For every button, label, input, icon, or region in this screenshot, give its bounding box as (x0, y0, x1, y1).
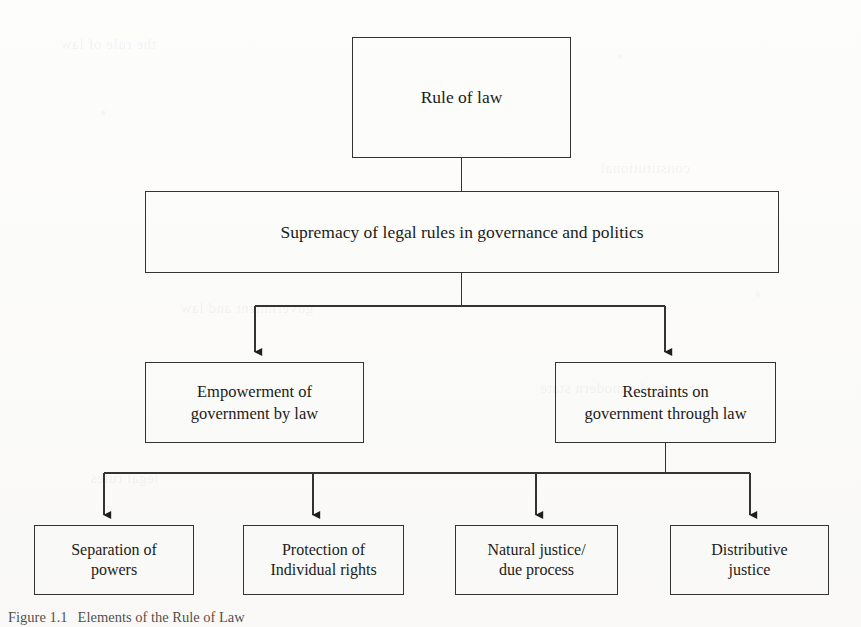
node-label-line1: Empowerment of (197, 382, 312, 401)
node-label: Separation of powers (63, 540, 165, 581)
node-label-line1: Restraints on (622, 382, 709, 401)
node-label: Protection of Individual rights (262, 540, 384, 581)
figure-caption-text: Elements of the Rule of Law (78, 609, 245, 625)
node-rule-of-law[interactable]: Rule of law (352, 37, 571, 158)
node-label-line2: government by law (191, 404, 318, 423)
node-label: Natural justice/ due process (479, 540, 593, 581)
scan-ghost-text: constitutional (600, 160, 690, 177)
node-label-line1: Separation of (71, 541, 157, 558)
node-label-line2: Individual rights (270, 561, 376, 578)
node-label: Supremacy of legal rules in governance a… (272, 221, 651, 243)
node-label-line2: powers (91, 561, 137, 578)
figure-number: Figure 1.1 (8, 609, 68, 625)
scan-ghost-text: government and law (180, 300, 313, 317)
node-label: Distributive justice (703, 540, 795, 581)
node-supremacy-of-legal-rules[interactable]: Supremacy of legal rules in governance a… (145, 191, 779, 273)
node-label-line1: Protection of (282, 541, 365, 558)
node-separation-of-powers[interactable]: Separation of powers (34, 525, 194, 595)
figure-caption: Figure 1.1Elements of the Rule of Law (8, 609, 245, 627)
node-label-line1: Natural justice/ (487, 541, 585, 558)
node-label: Rule of law (413, 86, 511, 108)
node-protection-of-individual-rights[interactable]: Protection of Individual rights (243, 525, 404, 595)
node-label-line2: justice (729, 561, 771, 578)
node-distributive-justice[interactable]: Distributive justice (670, 525, 829, 595)
scan-ghost-text: the rule of law (60, 36, 156, 53)
node-label: Restraints on government through law (576, 381, 754, 423)
node-label-line2: government through law (584, 404, 746, 423)
node-label-line1: Distributive (711, 541, 787, 558)
node-natural-justice-due-process[interactable]: Natural justice/ due process (455, 525, 618, 595)
node-label: Empowerment of government by law (183, 381, 326, 423)
node-label-line2: due process (499, 561, 574, 578)
node-empowerment-of-government[interactable]: Empowerment of government by law (145, 362, 364, 443)
figure-page: the rule of law constitutional governmen… (0, 0, 861, 627)
scan-ghost-text: legal rules (90, 470, 159, 487)
node-restraints-on-government[interactable]: Restraints on government through law (555, 362, 776, 443)
